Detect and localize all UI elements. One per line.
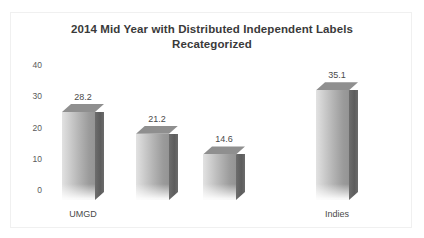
bar-column[interactable]: 21.2 bbox=[136, 126, 178, 200]
bar-top-face bbox=[316, 82, 358, 90]
chart-title-line-2: Recategorized bbox=[30, 37, 394, 52]
bar-3d-body bbox=[62, 104, 104, 200]
bar-base-fade bbox=[203, 184, 236, 200]
bar-front-face bbox=[316, 90, 349, 200]
bar-top-face bbox=[62, 104, 104, 112]
bar-side-face bbox=[349, 90, 358, 200]
bar-base-fade bbox=[136, 184, 169, 200]
bar-3d-body bbox=[316, 82, 358, 200]
bar-value-label: 35.1 bbox=[316, 70, 358, 80]
y-axis-tick-label: 10 bbox=[16, 154, 42, 164]
x-axis-category-label: Indies bbox=[316, 209, 358, 219]
bar-front-face bbox=[136, 134, 169, 200]
bar-front-face bbox=[203, 154, 236, 200]
bar-column[interactable]: 35.1Indies bbox=[316, 82, 358, 200]
bar-side-face bbox=[169, 134, 178, 200]
bar-side-face bbox=[95, 112, 104, 200]
bar-base-fade bbox=[62, 184, 95, 200]
chart-title: 2014 Mid Year with Distributed Independe… bbox=[30, 22, 394, 52]
y-axis-tick-label: 0 bbox=[16, 185, 42, 195]
bar-3d-body bbox=[203, 146, 245, 200]
bar-top-face bbox=[136, 126, 178, 134]
y-axis-tick-label: 40 bbox=[16, 60, 42, 70]
plot-area: 010203040 28.2UMGD21.214.635.1Indies bbox=[48, 75, 398, 200]
bar-side-face bbox=[236, 154, 245, 200]
bar-front-face bbox=[62, 112, 95, 200]
bar-top-face bbox=[203, 146, 245, 154]
chart-title-line-1: 2014 Mid Year with Distributed Independe… bbox=[30, 22, 394, 37]
bar-base-fade bbox=[316, 184, 349, 200]
bar-value-label: 14.6 bbox=[203, 134, 245, 144]
bar-column[interactable]: 14.6 bbox=[203, 146, 245, 200]
bar-column[interactable]: 28.2UMGD bbox=[62, 104, 104, 200]
bar-value-label: 28.2 bbox=[62, 92, 104, 102]
chart-container: 2014 Mid Year with Distributed Independe… bbox=[0, 0, 424, 238]
bar-value-label: 21.2 bbox=[136, 114, 178, 124]
y-axis-tick-label: 20 bbox=[16, 123, 42, 133]
x-axis-category-label: UMGD bbox=[62, 209, 104, 219]
bar-3d-body bbox=[136, 126, 178, 200]
y-axis-tick-label: 30 bbox=[16, 91, 42, 101]
